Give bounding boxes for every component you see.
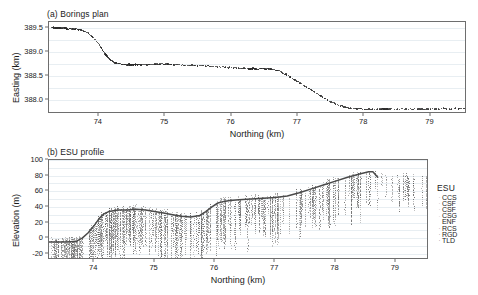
panel-a-y-tick-label: 388.0 <box>15 95 43 104</box>
boring-point <box>372 108 373 109</box>
boring-point <box>59 27 60 28</box>
panel-b-y-tick-label: 0 <box>15 233 43 242</box>
panel-a-x-axis-title: Northing (km) <box>230 129 285 139</box>
esu-log-point <box>67 258 68 259</box>
boring-point <box>202 65 203 66</box>
boring-point <box>446 108 447 109</box>
panel-b-x-tick-mark <box>394 259 395 262</box>
panel-a-x-tick-label: 74 <box>94 117 102 126</box>
legend-item-label: TLD <box>442 237 455 244</box>
boring-point <box>374 109 375 110</box>
panel-b-x-tick-mark <box>153 259 154 262</box>
boring-point <box>55 27 56 28</box>
boring-point <box>439 109 440 110</box>
esu-log-point <box>123 258 124 259</box>
boring-point <box>377 108 378 109</box>
boring-point <box>391 108 392 109</box>
panel-b-y-tick-label: 60 <box>15 186 43 195</box>
esu-log-point <box>107 258 108 259</box>
panel-b-x-tick-mark <box>334 259 335 262</box>
panel-a-y-tick-label: 389.0 <box>15 47 43 56</box>
gridline <box>49 76 465 77</box>
boring-point <box>432 108 433 109</box>
panel-a-title: (a) Borings plan <box>47 9 109 19</box>
panel-b-x-tick-mark <box>93 259 94 262</box>
panel-b-title: (b) ESU profile <box>47 147 104 157</box>
esu-log-point <box>67 258 68 259</box>
boring-point <box>101 47 102 48</box>
esu-legend: ESU ·CCS·CSF·CSF·CSGENF·RCS·RGD·TLD <box>437 183 457 244</box>
esu-log-point <box>65 258 66 259</box>
panel-b-x-tick-label: 77 <box>270 263 278 272</box>
boring-point <box>250 68 251 69</box>
esu-log-point <box>62 258 63 259</box>
panel-a-x-tick-mark <box>164 113 165 116</box>
esu-log-point <box>61 258 62 259</box>
esu-log-point <box>82 259 83 260</box>
boring-point <box>402 108 403 109</box>
esu-log-point <box>58 258 59 259</box>
esu-log-point <box>193 258 194 259</box>
esu-log-point <box>90 258 91 259</box>
panel-b-x-axis-title: Northing (km) <box>211 275 266 285</box>
panel-b-y-tick-label: 20 <box>15 217 43 226</box>
boring-point <box>236 67 237 68</box>
panel-b-x-tick-label: 75 <box>149 263 157 272</box>
boring-point <box>324 98 325 99</box>
boring-point <box>131 64 132 65</box>
panel-b-y-tick-label: 80 <box>15 170 43 179</box>
gridline <box>49 52 465 53</box>
boring-point <box>399 109 400 110</box>
gridline <box>49 64 465 65</box>
panel-b-y-tick-label: 40 <box>15 201 43 210</box>
panel-b-x-tick-label: 74 <box>89 263 97 272</box>
panel-a-x-tick-label: 79 <box>425 117 433 126</box>
gridline <box>49 40 465 41</box>
panel-a-x-tick-mark <box>296 113 297 116</box>
panel-a-x-tick-label: 76 <box>226 117 234 126</box>
panel-b-y-tick-label: 100 <box>15 155 43 164</box>
panel-a-x-tick-mark <box>230 113 231 116</box>
gridline <box>49 88 465 89</box>
figure-canvas: (a) Borings plan Easting (km) 388.0388.5… <box>0 0 478 295</box>
boring-point <box>463 108 464 109</box>
panel-b-x-tick-label: 76 <box>210 263 218 272</box>
boring-point <box>430 108 431 109</box>
boring-point <box>408 109 409 110</box>
boring-point <box>194 65 195 66</box>
panel-a-x-tick-label: 75 <box>160 117 168 126</box>
boring-point <box>451 108 452 109</box>
legend-item-list: ·CCS·CSF·CSF·CSGENF·RCS·RGD·TLD <box>437 194 457 244</box>
panel-b-plot-area <box>48 159 428 259</box>
panel-a-plot-area <box>48 21 466 113</box>
esu-log-point <box>171 259 172 260</box>
boring-point <box>435 108 436 109</box>
esu-log-point <box>201 258 202 259</box>
panel-b-x-tick-mark <box>213 259 214 262</box>
panel-b-x-tick-label: 79 <box>391 263 399 272</box>
panel-a-x-tick-mark <box>97 113 98 116</box>
legend-title: ESU <box>437 183 457 193</box>
panel-a-x-tick-mark <box>429 113 430 116</box>
esu-log-point <box>190 258 191 259</box>
panel-b-y-tick-label: -20 <box>15 248 43 257</box>
panel-b-ground-surface-line <box>49 160 428 259</box>
panel-a-x-tick-mark <box>363 113 364 116</box>
gridline <box>49 28 465 29</box>
boring-point <box>394 109 395 110</box>
panel-b-x-tick-label: 78 <box>330 263 338 272</box>
esu-log-point <box>56 259 57 260</box>
panel-a-y-tick-label: 388.5 <box>15 71 43 80</box>
boring-point <box>314 92 315 93</box>
esu-log-point <box>56 258 57 259</box>
boring-point <box>405 108 406 109</box>
panel-a-x-tick-label: 78 <box>359 117 367 126</box>
ground-surface-polyline <box>49 172 378 242</box>
legend-item-tld[interactable]: ·TLD <box>437 237 457 243</box>
panel-b-x-tick-mark <box>274 259 275 262</box>
panel-a-y-tick-label: 389.5 <box>15 22 43 31</box>
boring-point <box>231 67 232 68</box>
boring-point <box>441 108 442 109</box>
boring-point <box>455 107 456 108</box>
boring-point <box>414 108 415 109</box>
